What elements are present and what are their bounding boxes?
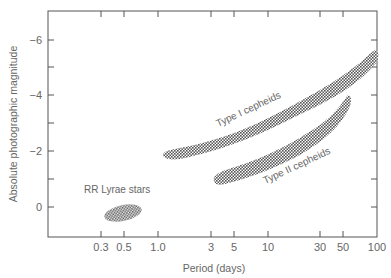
y-ticks-left xyxy=(48,40,54,207)
y-tick-label: −4 xyxy=(29,89,42,101)
x-tick-label: 1.0 xyxy=(150,241,165,253)
x-tick-label: 100 xyxy=(368,241,386,253)
y-tick-label: 0 xyxy=(36,201,42,213)
rr-lyrae-label: RR Lyrae stars xyxy=(84,184,150,195)
x-tick-labels: 0.3 0.5 1.0 3 5 10 30 50 100 xyxy=(93,241,386,253)
x-tick-label: 30 xyxy=(314,241,326,253)
x-tick-label: 0.5 xyxy=(116,241,131,253)
x-ticks-bottom xyxy=(101,231,343,237)
x-ticks-top xyxy=(101,11,343,17)
x-axis-label: Period (days) xyxy=(183,262,245,274)
x-tick-label: 3 xyxy=(208,241,214,253)
x-tick-label: 10 xyxy=(262,241,274,253)
x-tick-label: 0.3 xyxy=(93,241,108,253)
y-axis-label: Absolute photographic magnitude xyxy=(7,46,19,203)
y-tick-label: −2 xyxy=(29,145,42,157)
y-tick-label: −6 xyxy=(29,34,42,46)
y-tick-labels: −6 −4 −2 0 xyxy=(29,34,42,213)
x-tick-label: 50 xyxy=(337,241,349,253)
x-tick-label: 5 xyxy=(231,241,237,253)
rr-lyrae-region xyxy=(103,201,143,225)
chart: −6 −4 −2 0 0.3 0.5 1.0 3 5 10 30 50 100 … xyxy=(0,0,391,278)
